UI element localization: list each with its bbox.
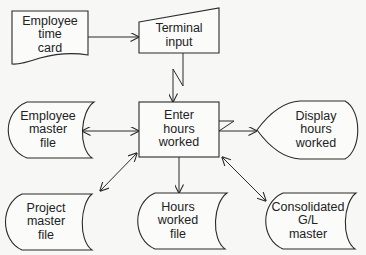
label-line: file [40,137,56,151]
label-line: hours [163,123,194,137]
label-line: Hours [161,201,194,215]
label-line: worked [158,214,198,228]
label-line: worked [296,137,336,151]
label-line: Employee [22,15,78,29]
label-line: master [27,215,65,229]
display-hours-worked-label: Display hours worked [280,101,352,159]
label-line: master [29,123,67,137]
label-line: Consolidated [272,201,345,215]
edge-projmaster-process [100,153,137,191]
edge-process-glmaster [222,157,266,201]
label-line: worked [159,136,199,150]
edge-terminal-process [173,53,183,102]
hours-worked-file-label: Hours worked file [140,193,216,249]
label-line: time [38,28,62,42]
label-line: G/L [298,214,318,228]
label-line: Employee [20,110,76,124]
label-line: hours [300,123,331,137]
terminal-input-label: Terminal input [139,18,219,53]
employee-master-file-label: Employee master file [10,102,86,158]
label-line: input [165,36,192,50]
label-line: card [38,42,62,56]
project-master-file-label: Project master file [8,194,84,250]
label-line: file [38,229,54,243]
label-line: Display [296,110,337,124]
edge-process-display [219,121,257,131]
flowchart: Employee time card Terminal input Enter … [0,0,366,255]
label-line: Enter [164,109,194,123]
consolidated-gl-master-label: Consolidated G/L master [266,193,350,249]
enter-hours-worked-label: Enter hours worked [139,102,219,157]
label-line: master [289,228,327,242]
label-line: file [170,228,186,242]
label-line: Project [27,202,66,216]
employee-time-card-label: Employee time card [12,11,88,59]
label-line: Terminal [155,22,202,36]
